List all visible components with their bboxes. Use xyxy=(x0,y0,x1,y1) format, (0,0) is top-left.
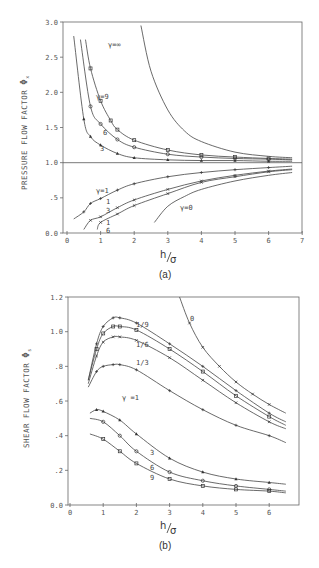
x-tick-label: 2 xyxy=(132,237,136,245)
y-tick-label: 1.2 xyxy=(50,294,63,302)
svg-text:1/9: 1/9 xyxy=(136,321,149,329)
series-curve xyxy=(141,26,292,158)
y-tick-label: 1.0 xyxy=(45,159,58,167)
chart-b-shear-flow-factor: 0.0.2.4.6.81.01.2 0123456 SHEAR FLOW FAC… xyxy=(21,294,299,551)
series-curve xyxy=(154,173,292,223)
x-tick-label: 6 xyxy=(267,509,271,517)
svg-text:6: 6 xyxy=(103,129,107,137)
series-curve xyxy=(85,40,292,160)
series-curve xyxy=(80,40,292,160)
y-axis-ticks-b: 0.0.2.4.6.81.01.2 xyxy=(50,294,68,510)
svg-text:6: 6 xyxy=(150,464,154,472)
x-tick-label: 4 xyxy=(201,509,205,517)
plot-frame-a xyxy=(63,22,302,233)
y-tick-label: 3.0 xyxy=(45,19,58,27)
y-axis-ticks-a: 0.0.51.01.52.02.53.0 xyxy=(45,19,63,238)
x-tick-label: 3 xyxy=(166,237,170,245)
svg-text:h: h xyxy=(160,249,166,260)
y-tick-label: .4 xyxy=(55,432,63,440)
x-axis-label-b: h σ xyxy=(160,520,177,536)
y-tick-label: 1.5 xyxy=(45,124,58,132)
y-tick-label: 0.0 xyxy=(50,502,63,510)
svg-text:γ=0: γ=0 xyxy=(180,204,193,212)
svg-text:γ=∞: γ=∞ xyxy=(108,41,121,49)
y-tick-label: .2 xyxy=(55,467,63,475)
x-tick-label: 1 xyxy=(101,509,105,517)
series-curve xyxy=(90,434,286,493)
y-tick-label: 2.0 xyxy=(45,89,58,97)
x-tick-label: 0 xyxy=(68,509,72,517)
y-axis-label-a: PRESSURE FLOW FACTOR Φx xyxy=(19,75,30,190)
x-axis-label-a: h σ xyxy=(160,249,177,265)
svg-text:9: 9 xyxy=(150,474,154,482)
x-tick-label: 7 xyxy=(300,237,304,245)
svg-text:1/6: 1/6 xyxy=(136,341,149,349)
x-tick-label: 5 xyxy=(234,509,238,517)
svg-text:h: h xyxy=(160,520,166,531)
x-tick-label: 1 xyxy=(98,237,102,245)
svg-text:1: 1 xyxy=(106,198,110,206)
svg-text:3: 3 xyxy=(150,449,154,457)
markers-a xyxy=(82,67,270,224)
y-tick-label: .8 xyxy=(55,363,63,371)
y-tick-label: 0.0 xyxy=(45,230,58,238)
markers-b xyxy=(95,316,271,492)
x-tick-label: 4 xyxy=(199,237,203,245)
svg-text:γ=9: γ=9 xyxy=(96,93,109,101)
series-curve xyxy=(88,326,286,425)
chart-a-pressure-flow-factor: 0.0.51.01.52.02.53.0 01234567 PRESSURE F… xyxy=(19,19,304,280)
y-tick-label: .6 xyxy=(55,398,63,406)
y-tick-label: 2.5 xyxy=(45,54,58,62)
caption-a: (a) xyxy=(159,269,171,280)
svg-text:1: 1 xyxy=(106,219,110,227)
svg-text:γ =1: γ =1 xyxy=(122,394,139,402)
svg-text:γ=1: γ=1 xyxy=(96,187,109,195)
caption-b: (b) xyxy=(159,540,171,551)
x-tick-label: 0 xyxy=(65,237,69,245)
svg-text:3: 3 xyxy=(100,145,104,153)
svg-text:3: 3 xyxy=(106,207,110,215)
curves-b xyxy=(88,297,286,493)
y-axis-label-b: SHEAR FLOW FACTOR Φs xyxy=(21,348,32,448)
y-tick-label: .5 xyxy=(50,194,58,202)
x-tick-label: 3 xyxy=(167,509,171,517)
svg-text:0: 0 xyxy=(190,315,194,323)
svg-text:σ: σ xyxy=(170,525,177,536)
svg-text:1/3: 1/3 xyxy=(136,359,149,367)
series-curve xyxy=(90,418,286,491)
svg-text:6: 6 xyxy=(106,227,110,235)
series-curve xyxy=(84,169,292,229)
x-tick-label: 5 xyxy=(233,237,237,245)
x-tick-label: 2 xyxy=(134,509,138,517)
series-curve xyxy=(97,170,292,230)
series-curve xyxy=(88,364,286,442)
series-curve xyxy=(88,336,286,428)
figure: 0.0.51.01.52.02.53.0 01234567 PRESSURE F… xyxy=(0,0,319,568)
curve-labels-a: γ=∞ γ=9 6 3 γ=1 1 3 1 6 γ=0 xyxy=(96,41,193,235)
svg-text:σ: σ xyxy=(170,254,177,265)
x-tick-label: 6 xyxy=(266,237,270,245)
series-curve xyxy=(180,297,286,413)
y-tick-label: 1.0 xyxy=(50,328,63,336)
